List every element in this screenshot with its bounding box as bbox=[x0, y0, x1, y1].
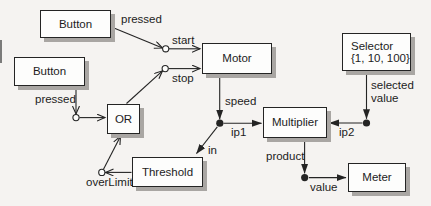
node-multiplier: Multiplier bbox=[263, 107, 327, 138]
pressed-port-circle bbox=[73, 115, 79, 121]
node-button-left: Button bbox=[14, 57, 85, 86]
start-port-circle bbox=[163, 46, 169, 52]
node-button-top: Button bbox=[40, 10, 111, 38]
edge-label-pressed-top: pressed bbox=[121, 13, 162, 26]
overlimit-port-circle bbox=[99, 169, 105, 175]
edge-or-to-stop-port bbox=[127, 71, 163, 104]
node-threshold-label: Threshold bbox=[142, 166, 193, 179]
edge-label-ip1: ip1 bbox=[231, 126, 246, 139]
edge-label-value: value bbox=[310, 181, 338, 194]
node-button-left-label: Button bbox=[33, 65, 66, 78]
ip1-junction-dot bbox=[216, 120, 223, 127]
node-selector-range: {1, 10, 100} bbox=[351, 52, 410, 65]
edge-label-speed: speed bbox=[225, 95, 256, 108]
edge-label-ip2: ip2 bbox=[339, 126, 354, 139]
edge-button1-to-start-port bbox=[112, 27, 163, 48]
edge-overlimit-port-to-or bbox=[104, 136, 121, 169]
edge-label-selected-line1: selected bbox=[371, 79, 414, 91]
diagram-canvas: Button Button Motor Selector {1, 10, 100… bbox=[0, 0, 431, 206]
edge-label-pressed-left: pressed bbox=[35, 93, 76, 106]
node-threshold: Threshold bbox=[132, 157, 203, 187]
node-motor: Motor bbox=[202, 43, 272, 74]
edge-label-stop: stop bbox=[172, 72, 194, 85]
edge-label-selected-value: selected value bbox=[371, 79, 414, 104]
node-selector: Selector {1, 10, 100} bbox=[342, 33, 411, 71]
scan-artifact-left-edge bbox=[0, 40, 2, 63]
edge-label-overlimit: overLimit bbox=[86, 176, 133, 189]
edge-label-in: in bbox=[208, 144, 217, 157]
node-multiplier-label: Multiplier bbox=[272, 116, 318, 129]
value-junction-dot bbox=[301, 174, 308, 181]
node-or-gate: OR bbox=[107, 104, 140, 134]
node-meter: Meter bbox=[348, 163, 406, 192]
edge-label-selected-line2: value bbox=[371, 92, 399, 104]
edge-label-start: start bbox=[172, 34, 194, 47]
edge-label-product: product bbox=[266, 150, 304, 163]
node-button-top-label: Button bbox=[59, 18, 92, 31]
node-selector-label: Selector bbox=[351, 40, 393, 53]
node-motor-label: Motor bbox=[222, 52, 251, 65]
node-meter-label: Meter bbox=[362, 171, 391, 184]
ip2-junction-dot bbox=[363, 119, 370, 126]
stop-port-circle bbox=[162, 66, 168, 72]
node-or-gate-label: OR bbox=[115, 113, 132, 126]
